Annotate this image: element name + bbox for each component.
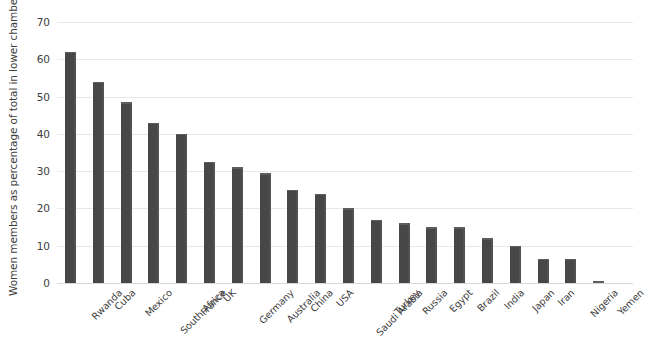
x-axis-tick-label: Yemen bbox=[615, 287, 645, 317]
bar bbox=[176, 134, 187, 283]
bar bbox=[510, 246, 521, 283]
x-axis-tick-label: Japan bbox=[530, 287, 557, 314]
x-axis-tick-label: Mexico bbox=[143, 287, 174, 318]
plot-area bbox=[57, 22, 633, 283]
gridline-0 bbox=[57, 283, 633, 284]
bar bbox=[593, 281, 604, 283]
y-tick-label-30: 30 bbox=[26, 166, 50, 177]
x-axis-tick-label: Egypt bbox=[447, 287, 474, 314]
gridline-50 bbox=[57, 97, 633, 98]
bar bbox=[204, 162, 215, 283]
bar bbox=[371, 220, 382, 283]
y-tick-label-70: 70 bbox=[26, 17, 50, 28]
y-tick-label-10: 10 bbox=[26, 241, 50, 252]
y-tick-label-60: 60 bbox=[26, 54, 50, 65]
bar bbox=[93, 82, 104, 283]
bar bbox=[287, 190, 298, 283]
gridline-30 bbox=[57, 171, 633, 172]
bar bbox=[232, 167, 243, 283]
x-axis-tick-label: Nigeria bbox=[588, 287, 620, 319]
bar bbox=[65, 52, 76, 283]
bar bbox=[399, 223, 410, 283]
bar bbox=[343, 208, 354, 283]
gridline-60 bbox=[57, 59, 633, 60]
gridline-40 bbox=[57, 134, 633, 135]
y-axis-title: Women members as percentage of total in … bbox=[4, 6, 22, 296]
bar bbox=[454, 227, 465, 283]
y-tick-label-50: 50 bbox=[26, 92, 50, 103]
y-tick-label-20: 20 bbox=[26, 203, 50, 214]
x-axis-tick-label: Russia bbox=[420, 287, 450, 317]
bar bbox=[121, 102, 132, 283]
bar bbox=[482, 238, 493, 283]
y-tick-label-0: 0 bbox=[26, 278, 50, 289]
x-axis-tick-label: Brazil bbox=[475, 287, 502, 314]
x-axis-tick-label: Turkey bbox=[392, 287, 422, 317]
x-axis-tick-label: India bbox=[501, 287, 525, 311]
bar bbox=[538, 259, 549, 283]
bar bbox=[148, 123, 159, 283]
bar bbox=[260, 173, 271, 283]
bar bbox=[565, 259, 576, 283]
gridline-70 bbox=[57, 22, 633, 23]
bar bbox=[426, 227, 437, 283]
x-axis-tick-label: USA bbox=[334, 287, 356, 309]
y-tick-label-40: 40 bbox=[26, 129, 50, 140]
x-axis-tick-label: Iran bbox=[556, 287, 577, 308]
bar bbox=[315, 194, 326, 283]
x-axis-labels: RwandaCubaMexicoSouth AfricaFranceUKGerm… bbox=[57, 287, 639, 350]
